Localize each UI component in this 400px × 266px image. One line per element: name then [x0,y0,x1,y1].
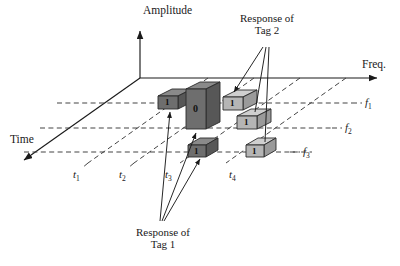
freq-tick-f3-sub: 3 [306,151,310,160]
time-axis-line [24,78,140,160]
bar-value-t3-f3: 1 [194,146,199,156]
bar-value-t4-f2: 1 [244,117,249,127]
response-tag-1-line1: Response of [120,226,206,238]
time-tick-t1: t1 [73,168,80,184]
time-tick-t2-sub: 2 [122,174,126,183]
amplitude-axis-label: Amplitude [143,4,192,17]
response-tag-2-line2: Tag 2 [226,24,308,36]
tag2-leader-1 [234,47,263,92]
freq-tick-f2: f2 [345,121,352,137]
bar-t3-f1[interactable] [186,82,220,129]
time-axis-label: Time [10,133,34,146]
time-tick-t1-sub: 1 [76,174,80,183]
time-tick-t3: t3 [165,168,172,184]
time-tick-t2: t2 [119,168,126,184]
freq-tick-f2-sub: 2 [348,127,352,136]
bar-value-t4-f3: 1 [252,146,257,156]
time-tick-t4: t4 [229,168,236,184]
grid-stub-t1 [82,163,88,168]
frequency-axis-label: Freq. [362,58,386,71]
grid-stub-t2 [128,163,134,168]
bar-t4-f1[interactable] [223,90,257,110]
freq-tick-f3: f3 [303,145,310,161]
bar-value-t3-f1: 0 [193,103,198,114]
time-tick-t3-sub: 3 [168,174,172,183]
figure-canvas: 1 0 1 1 1 1 Amplitude Freq. Time f1 f2 f… [0,0,400,266]
bar-value-t2-f1: 1 [165,97,170,107]
freq-tick-f1: f1 [365,96,372,112]
response-tag-2-line1: Response of [226,12,308,24]
freq-tick-f1-sub: 1 [368,102,372,111]
bar-value-t4-f1: 1 [230,98,235,108]
time-tick-t4-sub: 4 [232,174,236,183]
response-tag-2-annotation: Response of Tag 2 [226,12,308,37]
response-tag-1-line2: Tag 1 [120,238,206,250]
bar-t4-f3[interactable] [246,138,276,157]
response-tag-1-annotation: Response of Tag 1 [120,226,206,251]
